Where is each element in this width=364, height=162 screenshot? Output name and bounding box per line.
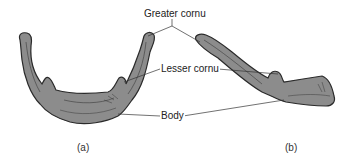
caption-view-a: (a) [77,142,89,153]
hyoid-illustration [0,0,364,162]
hyoid-diagram: Greater cornu Lesser cornu Body (a) (b) [0,0,364,162]
label-lesser-cornu: Lesser cornu [160,63,220,74]
label-body: Body [160,110,185,121]
leader-body-b [183,100,284,116]
label-greater-cornu: Greater cornu [143,8,207,19]
leader-greater-cornu-b [172,26,200,42]
caption-view-b: (b) [285,142,297,153]
leader-body-a [118,114,160,116]
leader-greater-cornu-a2 [148,26,172,36]
